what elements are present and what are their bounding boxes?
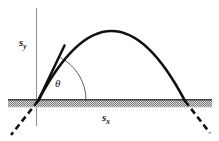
label-horizontal-displacement: sx <box>102 112 110 126</box>
projectile-diagram: sy sx θ <box>0 0 219 141</box>
label-launch-angle: θ <box>55 78 60 89</box>
label-vertical-displacement: sy <box>19 37 27 51</box>
label-sy-subscript: y <box>23 42 26 51</box>
label-sx-subscript: x <box>106 117 110 126</box>
